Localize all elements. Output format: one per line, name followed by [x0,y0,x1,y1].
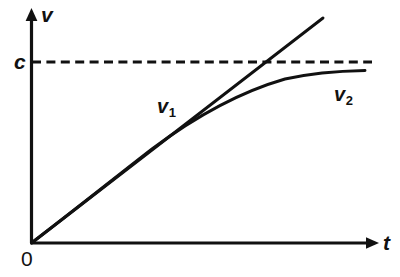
series-v2-symbol: v [334,83,345,105]
y-axis-arrowhead [26,8,38,21]
origin-label: 0 [21,248,33,269]
x-axis-group [32,237,380,248]
velocity-time-figure: v t c 0 v1 v2 [0,0,400,277]
series-label-v2: v2 [334,84,353,107]
x-axis-arrowhead [366,237,379,248]
y-axis-label: v [41,4,53,25]
asymptote-c-label: c [14,51,26,72]
series-v1-subscript: 1 [168,105,176,120]
y-axis-group [26,8,38,243]
series-label-v1: v1 [157,96,176,119]
series-v2-subscript: 2 [345,93,353,108]
plot-canvas [0,0,400,277]
x-axis-label: t [383,232,390,253]
series-v2-curve [32,71,366,244]
series-v1-symbol: v [157,95,168,117]
